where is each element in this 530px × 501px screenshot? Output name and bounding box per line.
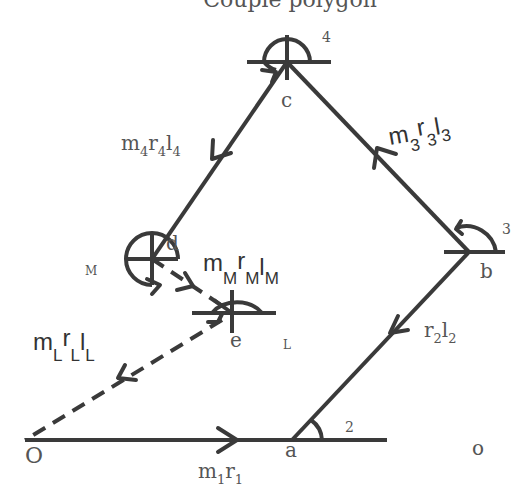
couple-polygon-diagram: Couple polygon O a b c d e o 2 3 4 M	[0, 0, 530, 501]
point-label-O: O	[25, 443, 43, 468]
point-label-e: e	[230, 328, 242, 352]
point-label-a: a	[285, 438, 297, 462]
vector-label-c-d: m4r4l4	[121, 131, 181, 159]
angle-arc-b	[456, 226, 496, 252]
vector-label-d-e: mMrMlM	[203, 247, 279, 288]
angle-label-e: L	[283, 338, 291, 352]
vector-b-c	[287, 62, 469, 252]
vector-label-e-o: mLrLlL	[33, 324, 95, 365]
angle-arc-a	[311, 420, 322, 440]
point-label-c: c	[281, 88, 292, 112]
vector-label-b-c: m3r3l3	[385, 109, 453, 159]
angle-label-c: 4	[322, 29, 331, 45]
angle-label-a: 2	[345, 419, 354, 435]
point-label-b: b	[480, 259, 493, 283]
angle-label-d: M	[85, 264, 97, 278]
point-label-d: d	[166, 231, 179, 255]
vector-label-a-b: r2l2	[424, 318, 457, 346]
point-label-o: o	[472, 436, 484, 460]
diagram-title: Couple polygon	[203, 0, 377, 12]
vector-label-o-a: m1r1	[198, 459, 243, 487]
vector-a-b	[292, 252, 469, 440]
vector-c-d	[152, 62, 287, 259]
angle-label-b: 3	[502, 221, 511, 237]
